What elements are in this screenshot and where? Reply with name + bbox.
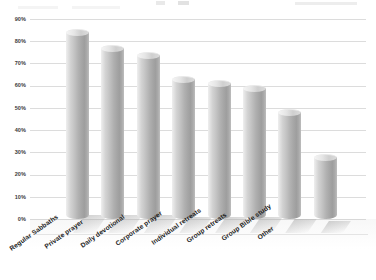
- x-label-other: Other: [256, 224, 275, 240]
- bar-chart: 0%10%20%30%40%50%60%70%80%90% Regular Sa…: [0, 0, 376, 280]
- x-axis-labels: Regular SabbathsPrivate prayerDaily devo…: [0, 0, 376, 280]
